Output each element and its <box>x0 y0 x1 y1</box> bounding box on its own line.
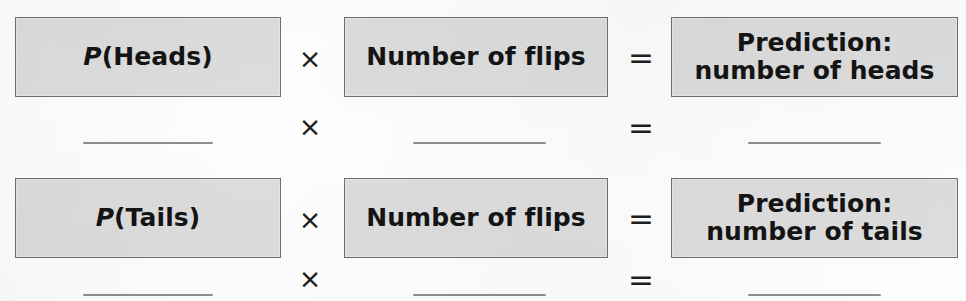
multiply-icon-row2: × <box>296 113 324 139</box>
worksheet-canvas: P(Heads) × Number of flips = Prediction:… <box>0 0 966 301</box>
equals-icon-row1: = <box>626 43 656 71</box>
blank-line-prediction-tails[interactable] <box>748 294 881 296</box>
blank-line-probability-tails[interactable] <box>83 294 213 296</box>
equals-icon-row4: = <box>626 265 656 293</box>
prediction-tails-line2: number of tails <box>706 217 923 246</box>
probability-variable-p: P <box>83 42 101 71</box>
probability-variable-p-tails: P <box>96 203 114 232</box>
probability-tails-argument: (Tails) <box>114 203 200 232</box>
multiply-icon-row1: × <box>296 45 324 71</box>
multiply-icon-row3: × <box>296 206 324 232</box>
prediction-tails-text: Prediction: number of tails <box>700 190 929 247</box>
equals-icon-row3: = <box>626 204 656 232</box>
prediction-tails-line1: Prediction: <box>737 189 892 218</box>
number-of-flips-box-heads[interactable]: Number of flips <box>344 17 608 97</box>
prediction-heads-box[interactable]: Prediction: number of heads <box>671 17 958 97</box>
prediction-heads-line2: number of heads <box>694 56 934 85</box>
probability-tails-box[interactable]: P(Tails) <box>15 178 281 258</box>
probability-heads-label: P(Heads) <box>77 43 219 71</box>
blank-line-number-of-flips-tails[interactable] <box>413 294 546 296</box>
number-of-flips-box-tails[interactable]: Number of flips <box>344 178 608 258</box>
prediction-tails-box[interactable]: Prediction: number of tails <box>671 178 958 258</box>
prediction-heads-text: Prediction: number of heads <box>688 29 940 86</box>
probability-heads-argument: (Heads) <box>102 42 213 71</box>
blank-line-number-of-flips-heads[interactable] <box>413 142 546 144</box>
probability-heads-box[interactable]: P(Heads) <box>15 17 281 97</box>
multiply-icon-row4: × <box>296 265 324 291</box>
blank-line-prediction-heads[interactable] <box>748 142 881 144</box>
prediction-heads-line1: Prediction: <box>737 28 892 57</box>
blank-line-probability-heads[interactable] <box>83 142 213 144</box>
number-of-flips-label-heads: Number of flips <box>360 43 592 71</box>
equals-icon-row2: = <box>626 113 656 141</box>
number-of-flips-label-tails: Number of flips <box>360 204 592 232</box>
probability-tails-label: P(Tails) <box>90 204 207 232</box>
